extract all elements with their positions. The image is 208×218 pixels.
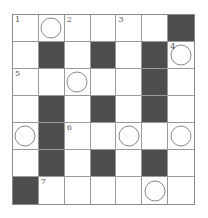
letter-cell[interactable]: 7 [39, 177, 65, 204]
black-cell [168, 15, 194, 42]
clue-number: 5 [15, 69, 20, 78]
black-cell [142, 96, 168, 123]
letter-cell[interactable] [65, 69, 91, 96]
clue-number: 2 [67, 15, 72, 24]
clue-number: 4 [170, 42, 175, 51]
letter-cell[interactable] [116, 177, 142, 204]
clue-number: 3 [118, 15, 123, 24]
letter-cell[interactable] [65, 96, 91, 123]
letter-cell[interactable] [65, 42, 91, 69]
letter-cell[interactable] [142, 15, 168, 42]
letter-cell[interactable] [39, 15, 65, 42]
letter-cell[interactable] [91, 177, 117, 204]
letter-cell[interactable] [168, 177, 194, 204]
black-cell [91, 42, 117, 69]
letter-cell[interactable] [91, 15, 117, 42]
letter-cell[interactable] [13, 96, 39, 123]
circle-icon [118, 126, 139, 147]
circle-icon [171, 126, 192, 147]
crossword-grid: 1234567 [12, 14, 195, 205]
letter-cell[interactable] [13, 42, 39, 69]
clue-number: 1 [15, 15, 20, 24]
letter-cell[interactable] [168, 96, 194, 123]
letter-cell[interactable]: 1 [13, 15, 39, 42]
circle-icon [144, 180, 165, 201]
letter-cell[interactable] [116, 96, 142, 123]
letter-cell[interactable] [116, 69, 142, 96]
letter-cell[interactable] [91, 123, 117, 150]
letter-cell[interactable]: 2 [65, 15, 91, 42]
letter-cell[interactable] [39, 69, 65, 96]
black-cell [142, 69, 168, 96]
letter-cell[interactable] [168, 123, 194, 150]
letter-cell[interactable] [13, 150, 39, 177]
letter-cell[interactable] [116, 123, 142, 150]
clue-number: 6 [67, 123, 72, 132]
clue-number: 7 [41, 177, 46, 186]
circle-icon [67, 72, 88, 93]
black-cell [39, 42, 65, 69]
letter-cell[interactable] [168, 69, 194, 96]
letter-cell[interactable]: 6 [65, 123, 91, 150]
black-cell [91, 150, 117, 177]
letter-cell[interactable]: 3 [116, 15, 142, 42]
letter-cell[interactable] [116, 150, 142, 177]
letter-cell[interactable] [142, 123, 168, 150]
letter-cell[interactable]: 4 [168, 42, 194, 69]
black-cell [142, 150, 168, 177]
circle-icon [41, 18, 62, 39]
black-cell [91, 96, 117, 123]
black-cell [39, 123, 65, 150]
letter-cell[interactable] [91, 69, 117, 96]
black-cell [142, 42, 168, 69]
black-cell [39, 96, 65, 123]
letter-cell[interactable] [168, 150, 194, 177]
black-cell [13, 177, 39, 204]
letter-cell[interactable]: 5 [13, 69, 39, 96]
circle-icon [15, 126, 36, 147]
letter-cell[interactable] [116, 42, 142, 69]
black-cell [39, 150, 65, 177]
letter-cell[interactable] [13, 123, 39, 150]
letter-cell[interactable] [65, 150, 91, 177]
letter-cell[interactable] [65, 177, 91, 204]
letter-cell[interactable] [142, 177, 168, 204]
